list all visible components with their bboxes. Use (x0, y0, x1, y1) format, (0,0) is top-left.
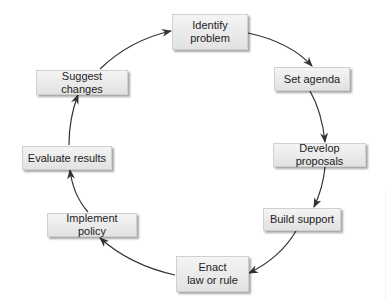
node-label: Develop proposals (278, 142, 361, 168)
node-label: Evaluate results (28, 152, 106, 165)
arrow-identify-to-agenda (248, 33, 312, 66)
node-set-agenda: Set agenda (274, 67, 350, 91)
node-label: Suggest changes (41, 70, 123, 96)
node-label: Enact (187, 261, 238, 274)
arrow-suggest-to-identify (100, 31, 171, 69)
node-suggest-changes: Suggest changes (36, 70, 128, 95)
node-label: law or rule (187, 274, 238, 287)
node-identify-problem: Identify problem (172, 14, 248, 50)
page-edge-artifact (385, 190, 386, 300)
arrow-proposals-to-support (314, 167, 325, 207)
arrow-enact-to-implement (100, 238, 175, 275)
arrow-implement-to-evaluate (70, 170, 88, 212)
node-implement-policy: Implement policy (47, 213, 137, 237)
node-label: Identify (190, 19, 230, 32)
node-label: problem (190, 32, 230, 45)
arrow-evaluate-to-suggest (69, 95, 78, 145)
node-develop-proposals: Develop proposals (273, 143, 366, 167)
node-label: Build support (270, 213, 334, 226)
node-label: Set agenda (284, 73, 340, 86)
node-enact-law: Enact law or rule (176, 256, 249, 292)
node-label: Implement policy (52, 212, 132, 238)
arrow-agenda-to-proposals (310, 91, 325, 142)
node-evaluate-results: Evaluate results (22, 146, 112, 170)
node-build-support: Build support (263, 208, 341, 231)
arrow-support-to-enact (249, 231, 296, 273)
policy-cycle-diagram: Identify problem Set agenda Develop prop… (0, 0, 390, 304)
